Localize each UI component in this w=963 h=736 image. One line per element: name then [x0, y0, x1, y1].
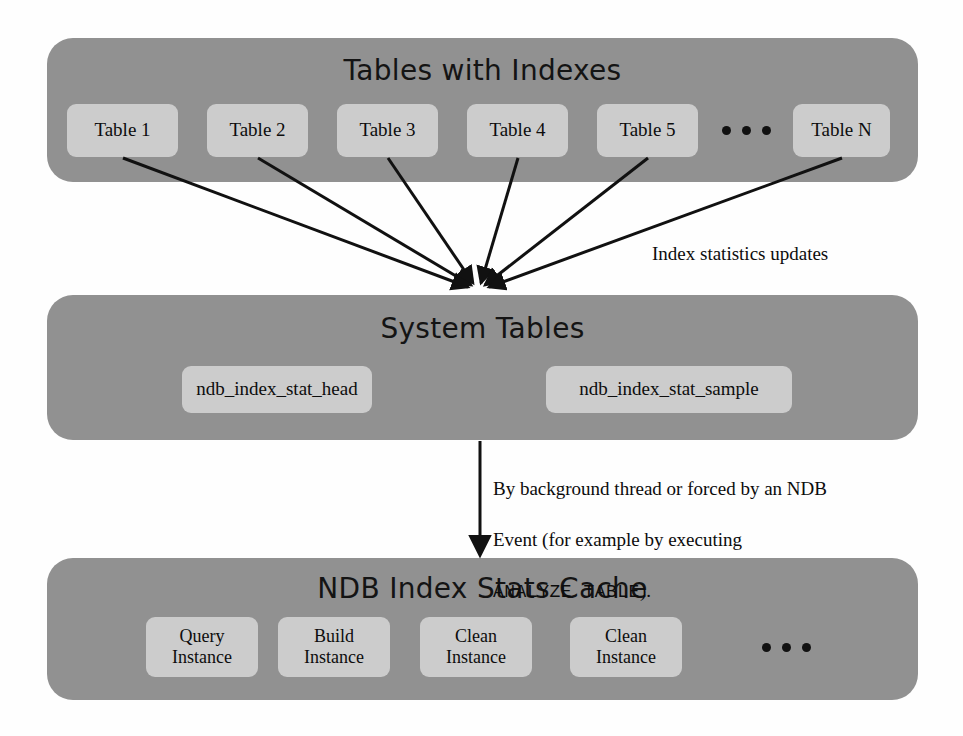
box-label: Table 3	[359, 119, 415, 141]
caption-index-statistics-updates: Index statistics updates	[652, 241, 828, 267]
caption-tail: ).	[640, 580, 651, 601]
box-table-2[interactable]: Table 2	[207, 104, 308, 157]
ellipsis-instances	[762, 643, 811, 652]
box-label-line-1: Clean	[605, 626, 647, 647]
box-label-line-2: Instance	[446, 647, 506, 668]
box-label: Table 1	[94, 119, 150, 141]
panel-title-tables-with-indexes: Tables with Indexes	[47, 54, 918, 87]
box-label-line-1: Build	[314, 626, 354, 647]
box-label: Table 2	[229, 119, 285, 141]
box-label: ndb_index_stat_head	[196, 378, 357, 400]
dot-icon	[742, 126, 751, 135]
box-table-1[interactable]: Table 1	[67, 104, 178, 157]
panel-title-system-tables: System Tables	[47, 312, 918, 345]
box-ndb-index-stat-head[interactable]: ndb_index_stat_head	[182, 366, 372, 413]
box-table-5[interactable]: Table 5	[597, 104, 698, 157]
dot-icon	[762, 643, 771, 652]
box-label: Table 4	[489, 119, 545, 141]
ellipsis-tables	[722, 126, 771, 135]
box-label: ndb_index_stat_sample	[579, 378, 758, 400]
dot-icon	[722, 126, 731, 135]
box-label-line-1: Query	[180, 626, 225, 647]
dot-icon	[802, 643, 811, 652]
caption-line-2: Event (for example by executing	[493, 529, 742, 550]
box-label-line-2: Instance	[172, 647, 232, 668]
box-label: Table N	[811, 119, 871, 141]
box-table-n[interactable]: Table N	[793, 104, 890, 157]
box-label-line-1: Clean	[455, 626, 497, 647]
ndb-index-stats-diagram: Tables with Indexes Table 1 Table 2 Tabl…	[0, 0, 963, 736]
caption-code-analyze-table: ANALYZE TABLE	[493, 582, 640, 602]
box-clean-instance-1[interactable]: Clean Instance	[420, 617, 532, 677]
box-clean-instance-2[interactable]: Clean Instance	[570, 617, 682, 677]
caption-line-1: By background thread or forced by an NDB	[493, 478, 827, 499]
box-table-3[interactable]: Table 3	[337, 104, 438, 157]
box-ndb-index-stat-sample[interactable]: ndb_index_stat_sample	[546, 366, 792, 413]
dot-icon	[762, 126, 771, 135]
box-table-4[interactable]: Table 4	[467, 104, 568, 157]
box-label-line-2: Instance	[304, 647, 364, 668]
box-build-instance[interactable]: Build Instance	[278, 617, 390, 677]
box-query-instance[interactable]: Query Instance	[146, 617, 258, 677]
caption-background-thread: By background thread or forced by an NDB…	[493, 450, 913, 605]
box-label-line-2: Instance	[596, 647, 656, 668]
box-label: Table 5	[619, 119, 675, 141]
dot-icon	[782, 643, 791, 652]
